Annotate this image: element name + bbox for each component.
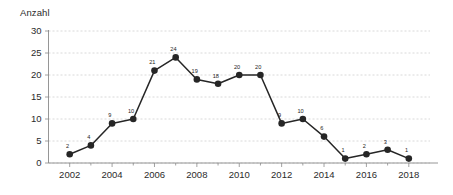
y-tick-label: 20 — [31, 69, 42, 80]
data-point-label: 9 — [108, 112, 111, 118]
data-point-label: 1 — [405, 147, 408, 153]
x-tick-label: 2014 — [313, 169, 334, 180]
line-chart: Anzahl 051015202530 20022004200620082010… — [0, 0, 453, 195]
x-tick-label: 2018 — [398, 169, 419, 180]
y-tick-label: 25 — [31, 47, 42, 58]
y-tick-label: 0 — [36, 157, 41, 168]
data-point-marker[interactable] — [109, 120, 116, 127]
x-tick-label: 2012 — [271, 169, 292, 180]
data-point-label: 10 — [128, 108, 134, 114]
y-tick-label: 10 — [31, 113, 42, 124]
data-point-marker[interactable] — [278, 120, 285, 127]
x-tick-label: 2016 — [356, 169, 377, 180]
data-point-marker[interactable] — [88, 142, 95, 149]
x-tick-label: 2004 — [102, 169, 123, 180]
x-axis-ticks: 200220042006200820102012201420162018 — [59, 163, 419, 180]
data-point-label: 3 — [384, 139, 387, 145]
series-point-labels: 2491021241918202091061231 — [66, 46, 408, 153]
data-point-label: 24 — [170, 46, 176, 52]
x-tick-label: 2006 — [144, 169, 165, 180]
data-point-label: 10 — [298, 108, 304, 114]
data-point-label: 18 — [213, 73, 219, 79]
data-point-label: 6 — [320, 125, 323, 131]
x-tick-label: 2008 — [186, 169, 207, 180]
data-point-label: 19 — [192, 68, 198, 74]
data-point-marker[interactable] — [406, 155, 413, 162]
data-point-marker[interactable] — [342, 155, 349, 162]
data-point-label: 21 — [149, 59, 155, 65]
gridlines — [49, 31, 431, 163]
data-point-label: 2 — [363, 143, 366, 149]
chart-canvas: 051015202530 200220042006200820102012201… — [0, 0, 453, 195]
data-point-label: 20 — [234, 64, 240, 70]
data-point-marker[interactable] — [66, 151, 73, 158]
data-point-marker[interactable] — [257, 72, 264, 79]
data-point-marker[interactable] — [215, 81, 222, 88]
y-tick-label: 5 — [36, 135, 41, 146]
data-point-marker[interactable] — [363, 151, 370, 158]
data-point-marker[interactable] — [151, 67, 158, 74]
data-point-marker[interactable] — [236, 72, 243, 79]
data-point-marker[interactable] — [321, 133, 328, 140]
y-axis-ticks: 051015202530 — [31, 25, 49, 168]
x-tick-label: 2002 — [59, 169, 80, 180]
data-point-label: 4 — [87, 134, 90, 140]
data-point-marker[interactable] — [300, 116, 307, 123]
data-point-marker[interactable] — [194, 76, 201, 83]
data-point-label: 1 — [341, 147, 344, 153]
data-point-marker[interactable] — [384, 147, 391, 154]
series-markers — [66, 54, 412, 162]
data-point-label: 2 — [66, 143, 69, 149]
data-point-label: 9 — [278, 112, 281, 118]
y-tick-label: 15 — [31, 91, 42, 102]
data-point-label: 20 — [255, 64, 261, 70]
x-tick-label: 2010 — [229, 169, 250, 180]
data-point-marker[interactable] — [172, 54, 179, 61]
data-point-marker[interactable] — [130, 116, 137, 123]
y-tick-label: 30 — [31, 25, 42, 36]
